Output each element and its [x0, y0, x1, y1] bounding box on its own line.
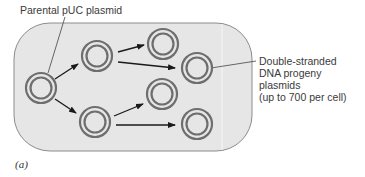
bacterial-cell: [14, 23, 252, 151]
progeny-label-line-4: (up to 700 per cell): [259, 91, 347, 103]
parental-plasmid-label: Parental pUC plasmid: [20, 4, 122, 16]
figure-caption: (a): [15, 158, 28, 170]
progeny-label-line-1: Double-stranded: [259, 55, 347, 67]
progeny-label-line-3: plasmids: [259, 79, 347, 91]
progeny-label-line-2: DNA progeny: [259, 67, 347, 79]
progeny-plasmids-label: Double-stranded DNA progeny plasmids (up…: [259, 55, 347, 103]
